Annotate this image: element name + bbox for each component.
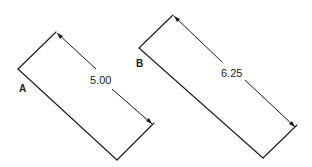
shape-b-long-edge	[139, 48, 263, 158]
shape-a-dimension-line-upper	[57, 33, 96, 69]
shape-b-dimension-line-upper	[174, 16, 222, 62]
shape-a-dimension-line-lower	[112, 89, 152, 124]
shape-a-label: A	[19, 83, 26, 94]
shape-a-dimension-value: 5.00	[90, 74, 111, 86]
shape-a-short-edge-top	[18, 32, 56, 69]
shape-a-short-edge-bottom	[117, 123, 154, 160]
shape-b-short-edge-bottom	[263, 125, 297, 158]
shape-b-label: B	[136, 58, 143, 69]
shape-b-dimension-line-lower	[245, 80, 295, 127]
shape-b-short-edge-top	[139, 15, 173, 48]
shape-b: B 6.25	[136, 15, 297, 158]
diagram-canvas: A 5.00 B 6.25	[0, 0, 312, 167]
shape-b-dimension-value: 6.25	[221, 67, 242, 79]
shape-a: A 5.00	[18, 32, 154, 160]
